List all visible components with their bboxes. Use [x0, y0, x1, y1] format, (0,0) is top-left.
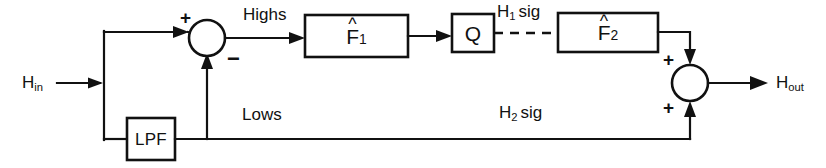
wire-f1-to-quantizer — [408, 30, 452, 42]
f2-hat-symbol-wrap: ^F — [598, 22, 611, 43]
output-sum-plus-sign-bottom: + — [663, 98, 674, 117]
wire-sum1-to-f1 — [225, 32, 305, 44]
h2sig-signal-label: H2sig — [499, 104, 542, 121]
f1-subscript: 1 — [359, 33, 367, 47]
output-sum-plus-sign-top: + — [663, 50, 674, 69]
lows-signal-label: Lows — [242, 106, 282, 123]
output-port-subscript: out — [788, 81, 804, 93]
input-port-subscript: in — [34, 81, 43, 93]
output-summing-junction-shape — [672, 65, 708, 101]
f2-subscript: 2 — [611, 29, 619, 43]
output-port-base: H — [776, 73, 788, 92]
wire-lows-to-sum2 — [684, 101, 696, 139]
h2sig-suffix: sig — [521, 103, 543, 122]
wire-input-to-tap — [57, 78, 103, 89]
wire-sum2-to-output — [708, 76, 768, 90]
block-diagram: Hin Hout Highs Lows H1sig H2sig ^F1 Q ^F… — [0, 0, 826, 168]
diagram-canvas — [0, 0, 826, 168]
quantizer-block-label: Q — [452, 14, 494, 52]
h1sig-base: H — [497, 2, 509, 21]
h1sig-subscript: 1 — [509, 10, 515, 22]
wire-tap-to-sum1 — [104, 26, 189, 38]
input-port-base: H — [22, 73, 34, 92]
h1sig-suffix: sig — [519, 2, 541, 21]
wire-lows-to-sum1-minus — [201, 53, 213, 139]
input-port-label: Hin — [22, 74, 43, 91]
input-sum-plus-sign: + — [180, 8, 191, 27]
lpf-block-label: LPF — [127, 118, 175, 160]
f2-hat-block-label: ^F2 — [558, 13, 658, 52]
f1-hat-symbol-wrap: ^F — [346, 26, 359, 47]
circumflex-icon: ^ — [600, 13, 608, 31]
h1sig-signal-label: H1sig — [497, 3, 540, 20]
input-sum-minus-sign: − — [227, 48, 240, 70]
h2sig-base: H — [499, 103, 511, 122]
f1-hat-block-label: ^F1 — [305, 15, 408, 57]
input-summing-junction-shape — [189, 20, 225, 56]
highs-signal-label: Highs — [243, 6, 286, 23]
circumflex-icon: ^ — [348, 16, 356, 34]
output-port-label: Hout — [776, 74, 804, 91]
h2sig-subscript: 2 — [511, 111, 517, 123]
